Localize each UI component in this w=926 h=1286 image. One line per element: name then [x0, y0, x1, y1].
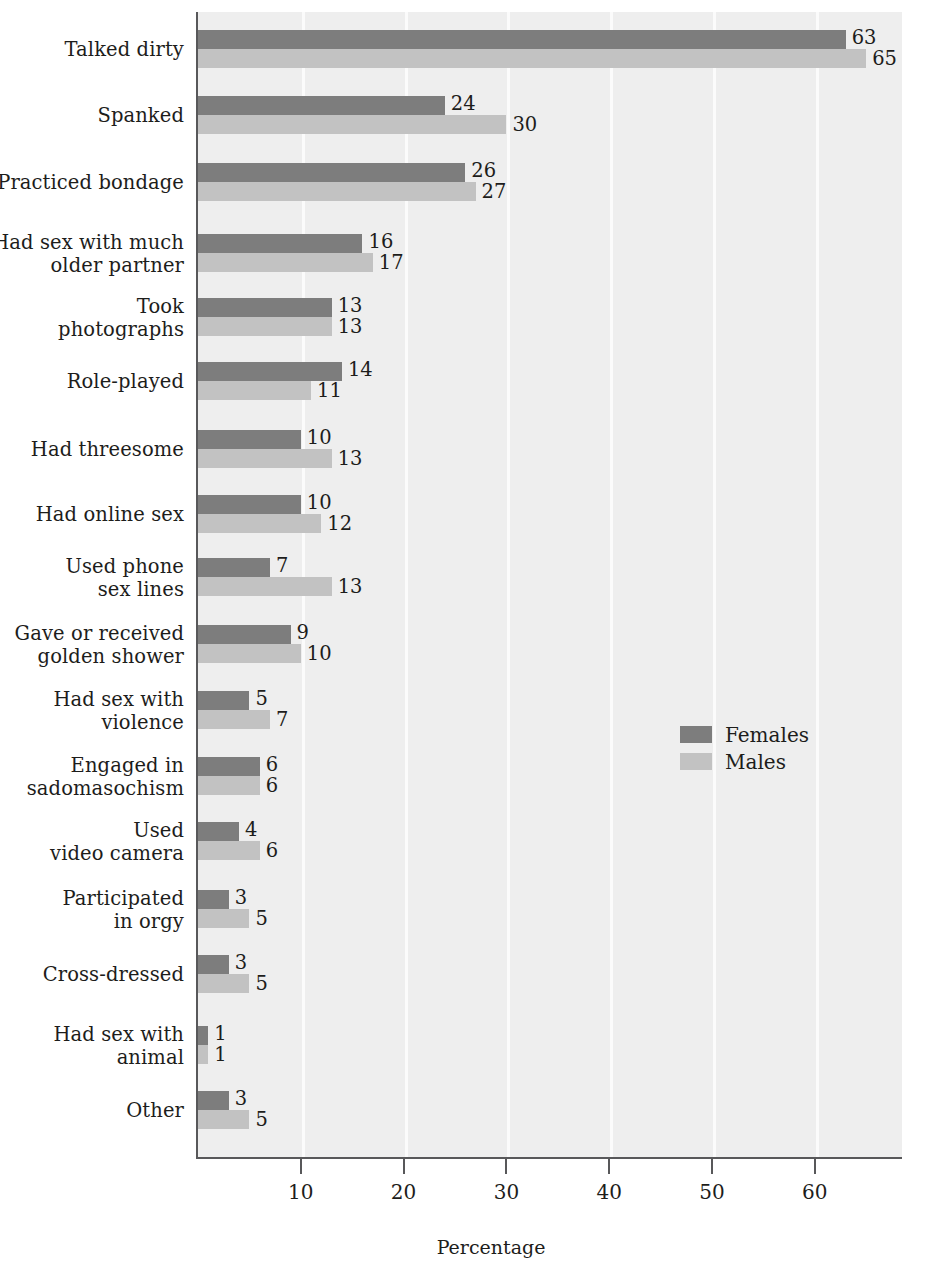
bar-value-females: 10	[307, 493, 332, 512]
category-label-line2: violence	[0, 711, 184, 734]
category-label: Had sex withviolence	[0, 688, 184, 734]
legend-swatch-males-icon	[680, 753, 712, 770]
chart-row: Talked dirty6365	[0, 30, 926, 70]
bar-value-females: 14	[348, 360, 373, 379]
bar-value-males: 10	[307, 644, 332, 663]
bar-males	[198, 115, 506, 134]
category-label-line1: Had sex with much	[0, 231, 184, 254]
chart-row: Role-played1411	[0, 362, 926, 402]
category-label-line1: Had sex with	[53, 688, 184, 711]
category-label: Role-played	[0, 370, 184, 393]
bar-females	[198, 625, 291, 644]
category-label-line1: Engaged in	[71, 754, 184, 777]
bar-males	[198, 182, 476, 201]
bar-males	[198, 381, 311, 400]
bar-males	[198, 841, 260, 860]
bar-females	[198, 691, 249, 710]
bar-males	[198, 253, 373, 272]
x-axis-tick	[608, 1159, 610, 1174]
chart-row: Spanked2430	[0, 96, 926, 136]
bar-females	[198, 234, 362, 253]
category-label: Engaged insadomasochism	[0, 754, 184, 800]
bar-males	[198, 644, 301, 663]
bar-males	[198, 1110, 249, 1129]
bar-value-females: 26	[471, 161, 496, 180]
legend-label-males: Males	[725, 749, 786, 775]
chart-row: Engaged insadomasochism66	[0, 757, 926, 797]
chart-row: Participatedin orgy35	[0, 890, 926, 930]
category-label-line1: Used phone	[65, 555, 184, 578]
bar-males	[198, 49, 866, 68]
category-label-line1: Other	[126, 1099, 184, 1122]
x-axis-tick-label: 50	[682, 1180, 742, 1204]
category-label-line1: Used	[133, 819, 184, 842]
x-axis-tick	[505, 1159, 507, 1174]
bar-value-females: 5	[255, 689, 267, 708]
bar-value-females: 3	[235, 953, 247, 972]
bar-females	[198, 1091, 229, 1110]
bar-value-females: 6	[266, 755, 278, 774]
category-label-line1: Participated	[62, 887, 184, 910]
bar-value-males: 11	[317, 381, 342, 400]
x-axis-tick-label: 40	[579, 1180, 639, 1204]
bar-chart: Talked dirty6365Spanked2430Practiced bon…	[0, 0, 926, 1286]
bar-males	[198, 909, 249, 928]
bar-value-males: 5	[255, 974, 267, 993]
bar-females	[198, 757, 260, 776]
bar-females	[198, 30, 846, 49]
bar-value-females: 13	[338, 296, 363, 315]
bar-value-males: 1	[214, 1045, 226, 1064]
bar-males	[198, 317, 332, 336]
category-label: Talked dirty	[0, 38, 184, 61]
bar-value-females: 63	[852, 28, 877, 47]
bar-females	[198, 890, 229, 909]
bar-value-males: 6	[266, 841, 278, 860]
category-label-line2: golden shower	[0, 645, 184, 668]
bar-value-males: 7	[276, 710, 288, 729]
bar-females	[198, 1026, 208, 1045]
bar-value-males: 6	[266, 776, 278, 795]
bar-females	[198, 822, 239, 841]
category-label-line2: photographs	[0, 318, 184, 341]
category-label: Other	[0, 1099, 184, 1122]
bar-value-females: 1	[214, 1024, 226, 1043]
bar-value-males: 30	[512, 115, 537, 134]
category-label-line2: in orgy	[0, 910, 184, 933]
category-label: Had sex with mucholder partner	[0, 231, 184, 277]
legend-swatch-females-icon	[680, 726, 712, 743]
category-label-line2: older partner	[0, 254, 184, 277]
x-axis-tick-label: 10	[271, 1180, 331, 1204]
bar-value-females: 9	[297, 623, 309, 642]
bar-value-males: 13	[338, 449, 363, 468]
category-label: Cross-dressed	[0, 963, 184, 986]
category-label-line2: video camera	[0, 842, 184, 865]
x-axis-tick-label: 30	[476, 1180, 536, 1204]
bar-value-females: 24	[451, 94, 476, 113]
category-label: Tookphotographs	[0, 295, 184, 341]
bar-females	[198, 955, 229, 974]
x-axis-tick	[814, 1159, 816, 1174]
category-label-line1: Cross-dressed	[43, 963, 184, 986]
bar-value-males: 5	[255, 909, 267, 928]
bar-value-females: 4	[245, 820, 257, 839]
category-label-line1: Took	[137, 295, 184, 318]
category-label-line1: Had online sex	[36, 503, 184, 526]
bar-females	[198, 163, 465, 182]
bar-value-females: 10	[307, 428, 332, 447]
chart-row: Other35	[0, 1091, 926, 1131]
bar-value-females: 3	[235, 1089, 247, 1108]
chart-row: Gave or receivedgolden shower910	[0, 625, 926, 665]
bar-value-males: 5	[255, 1110, 267, 1129]
category-label: Had sex withanimal	[0, 1023, 184, 1069]
bar-males	[198, 449, 332, 468]
category-label: Used phonesex lines	[0, 555, 184, 601]
bar-males	[198, 514, 321, 533]
category-label-line1: Practiced bondage	[0, 171, 184, 194]
bar-females	[198, 430, 301, 449]
chart-row: Had sex withanimal11	[0, 1026, 926, 1066]
bar-males	[198, 710, 270, 729]
bar-value-males: 13	[338, 577, 363, 596]
category-label-line2: sex lines	[0, 578, 184, 601]
bar-value-males: 65	[872, 49, 897, 68]
x-axis-tick-label: 60	[785, 1180, 845, 1204]
